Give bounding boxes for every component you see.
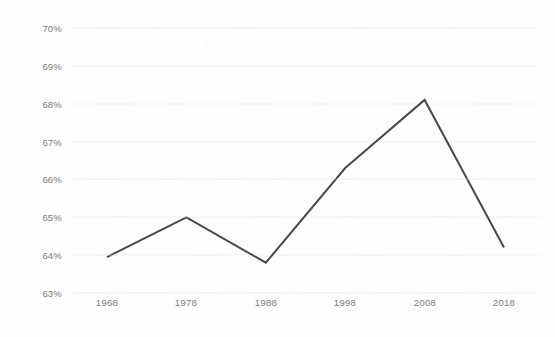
line-chart: 70% 69% 68% 67% 66% 65% 64% 63% 1968 197… [0,0,555,337]
series-svg [0,0,555,337]
plot-area: 70% 69% 68% 67% 66% 65% 64% 63% 1968 197… [0,0,555,337]
data-series-line [107,100,504,263]
